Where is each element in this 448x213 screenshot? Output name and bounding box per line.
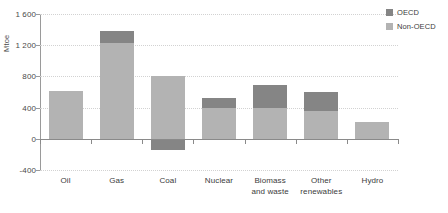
legend-item-label: OECD bbox=[397, 8, 419, 17]
x-axis-tick-mark bbox=[296, 139, 297, 144]
bar-segment-oecd-negative bbox=[151, 139, 185, 151]
bar-segment-non-oecd bbox=[355, 122, 389, 139]
y-axis-tick-mark bbox=[36, 108, 40, 109]
plot-area bbox=[40, 14, 398, 170]
y-axis-tick-label: 1 600 bbox=[2, 10, 36, 19]
bar-segment-non-oecd bbox=[253, 108, 287, 139]
x-axis-tick-mark bbox=[347, 139, 348, 144]
y-axis-tick-label: 400 bbox=[2, 103, 36, 112]
y-axis-tick-labels: 1 6001 2008004000-400 bbox=[0, 0, 36, 213]
x-axis-tick-mark bbox=[91, 139, 92, 144]
y-axis-tick-mark bbox=[36, 170, 40, 171]
gridline bbox=[40, 170, 398, 171]
x-axis-tick-mark bbox=[193, 139, 194, 144]
bar-segment-non-oecd bbox=[100, 43, 134, 139]
y-axis-tick-label: -400 bbox=[2, 166, 36, 175]
y-axis-tick-mark bbox=[36, 14, 40, 15]
bar-segment-oecd bbox=[253, 85, 287, 108]
chart-container: Mtoe 1 6001 2008004000-400 OilGasCoalNuc… bbox=[0, 0, 448, 213]
legend-item-label: Non-OECD bbox=[397, 22, 436, 31]
x-axis-tick-mark bbox=[398, 139, 399, 144]
gridline bbox=[40, 76, 398, 77]
y-axis-tick-mark bbox=[36, 45, 40, 46]
y-axis-tick-mark bbox=[36, 76, 40, 77]
y-axis-tick-label: 0 bbox=[2, 134, 36, 143]
y-axis-line bbox=[40, 14, 41, 170]
gridline bbox=[40, 45, 398, 46]
x-axis-tick-mark bbox=[245, 139, 246, 144]
chart-legend: OECDNon-OECD bbox=[386, 8, 446, 36]
bar-segment-oecd bbox=[304, 92, 338, 111]
legend-swatch-icon bbox=[386, 9, 393, 16]
bar-segment-non-oecd bbox=[202, 108, 236, 139]
bar-segment-non-oecd bbox=[151, 76, 185, 138]
y-axis-tick-label: 800 bbox=[2, 72, 36, 81]
x-axis-tick-labels: OilGasCoalNuclearBiomassand wasteOtherre… bbox=[40, 176, 398, 210]
y-axis-tick-label: 1 200 bbox=[2, 41, 36, 50]
bar-segment-oecd bbox=[100, 31, 134, 43]
legend-item[interactable]: Non-OECD bbox=[386, 22, 446, 31]
bar-segment-oecd bbox=[202, 98, 236, 107]
gridline bbox=[40, 14, 398, 15]
zero-axis-line bbox=[40, 139, 398, 140]
x-axis-tick-mark bbox=[142, 139, 143, 144]
legend-swatch-icon bbox=[386, 23, 393, 30]
x-axis-tick-mark bbox=[40, 139, 41, 144]
bar-segment-non-oecd bbox=[49, 91, 83, 139]
bar-segment-non-oecd bbox=[304, 111, 338, 139]
legend-item[interactable]: OECD bbox=[386, 8, 446, 17]
x-axis-category-label: Hydro bbox=[342, 176, 402, 187]
